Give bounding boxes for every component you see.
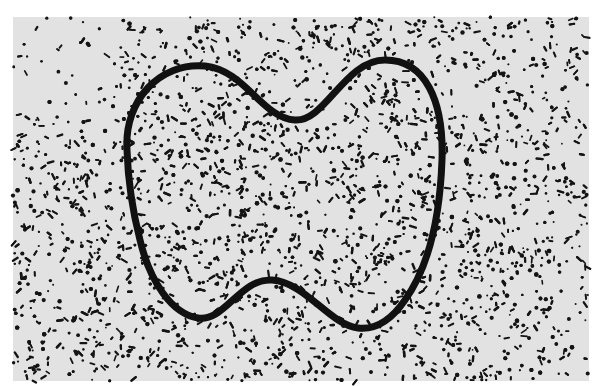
stipple-figure — [0, 0, 597, 386]
